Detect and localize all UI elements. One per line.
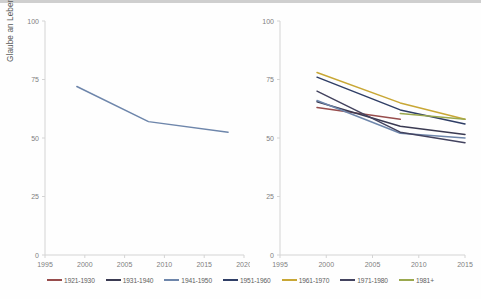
legend-item-label: 1941-1950 [181,277,212,284]
chart-legend: 1921-19301931-19401941-19501951-19601961… [0,272,481,288]
svg-text:2000: 2000 [318,261,334,268]
line-chart-right: 025507510019952000200520102015 [250,0,481,270]
legend-item-label: 1981+ [416,277,434,284]
legend-item-1951-1960[interactable]: 1951-1960 [223,277,271,284]
line-chart-left: 0255075100199520002005201020152020 [0,0,250,270]
legend-swatch-icon [47,279,62,281]
svg-text:1995: 1995 [37,261,53,268]
figure-container: Glaube an Leben nach dem Tod (Prozent) 0… [0,0,481,299]
legend-item-1971-1980[interactable]: 1971-1980 [340,277,388,284]
svg-text:50: 50 [266,135,274,142]
legend-item-label: 1971-1980 [357,277,388,284]
svg-text:100: 100 [262,18,274,25]
legend-swatch-icon [106,279,121,281]
legend-item-label: 1961-1970 [299,277,330,284]
legend-item-1921-1930[interactable]: 1921-1930 [47,277,95,284]
legend-swatch-icon [282,279,297,281]
legend-item-label: 1921-1930 [64,277,95,284]
svg-text:2005: 2005 [365,261,381,268]
legend-item-1931-1940[interactable]: 1931-1940 [106,277,154,284]
svg-text:75: 75 [266,76,274,83]
legend-item-label: 1951-1960 [240,277,271,284]
svg-text:0: 0 [270,252,274,259]
svg-text:2015: 2015 [457,261,473,268]
legend-swatch-icon [340,279,355,281]
legend-item-1981[interactable]: 1981+ [399,277,434,284]
svg-text:75: 75 [31,76,39,83]
legend-item-1941-1950[interactable]: 1941-1950 [164,277,212,284]
svg-text:2010: 2010 [157,261,173,268]
svg-text:25: 25 [266,193,274,200]
svg-text:0: 0 [35,252,39,259]
svg-text:1995: 1995 [272,261,288,268]
svg-text:2000: 2000 [77,261,93,268]
svg-text:2020: 2020 [236,261,250,268]
svg-text:50: 50 [31,135,39,142]
svg-text:100: 100 [27,18,39,25]
chart-panel-right: 025507510019952000200520102015 [250,0,481,270]
legend-swatch-icon [223,279,238,281]
svg-text:2005: 2005 [117,261,133,268]
legend-swatch-icon [399,279,414,281]
legend-swatch-icon [164,279,179,281]
legend-item-label: 1931-1940 [123,277,154,284]
svg-text:2015: 2015 [196,261,212,268]
chart-panel-left: Glaube an Leben nach dem Tod (Prozent) 0… [0,0,250,270]
svg-text:25: 25 [31,193,39,200]
svg-text:2010: 2010 [411,261,427,268]
y-axis-title-left: Glaube an Leben nach dem Tod (Prozent) [6,0,15,62]
legend-item-1961-1970[interactable]: 1961-1970 [282,277,330,284]
